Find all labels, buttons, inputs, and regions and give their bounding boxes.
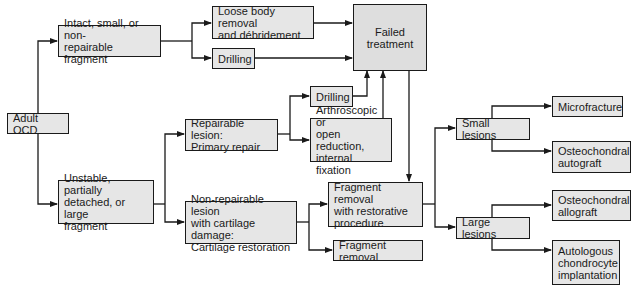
edge-drilling-mid-to-failed [352,71,367,96]
node-arthroscopic-fixation: Arthroscopic or open reduction, internal… [310,118,392,162]
edge-repairable-to-arthroscopic [290,134,309,140]
edge-intact-to-loose-body [192,23,211,41]
node-osteochondral-autograft: Osteochondral autograft [552,141,631,173]
node-microfracture: Microfracture [552,96,623,117]
node-large-lesions: Large lesions [456,217,530,239]
node-loose-body-removal: Loose body removal and débridement [212,6,314,39]
edge-adult-to-intact [38,41,57,113]
node-drilling-top: Drilling [212,48,255,69]
edge-unstable-to-non-repairable [165,204,184,222]
edge-adult-to-unstable [38,133,57,204]
edge-repairable-to-drilling [290,96,309,134]
node-small-lesions: Small lesions [456,118,530,140]
treatment-flowchart: Adult OCD Intact, small, or non- repaira… [0,0,636,292]
node-autologous-chondrocyte-implantation: Autologous chondrocyte implantation [552,240,620,285]
edge-intact-to-drilling [192,41,211,58]
edge-non-repairable-to-fragment-restorative [309,204,327,222]
node-intact-fragment: Intact, small, or non- repairable fragme… [58,25,161,57]
node-repairable-lesion: Repairable lesion: Primary repair [185,119,278,151]
node-adult-ocd: Adult OCD [7,113,69,134]
node-failed-treatment: Failed treatment [353,4,427,71]
node-unstable-fragment: Unstable, partially detached, or large f… [58,180,154,224]
edge-to-large-lesions [435,204,455,227]
edge-to-small-lesions [435,128,455,204]
node-fragment-removal: Fragment removal [333,240,423,261]
node-osteochondral-allograft: Osteochondral allograft [552,190,631,221]
node-non-repairable-lesion: Non-repairable lesion with cartilage dam… [185,201,297,244]
edge-unstable-to-repairable [165,134,184,204]
node-fragment-removal-restorative: Fragment removal with restorative proced… [328,182,423,227]
